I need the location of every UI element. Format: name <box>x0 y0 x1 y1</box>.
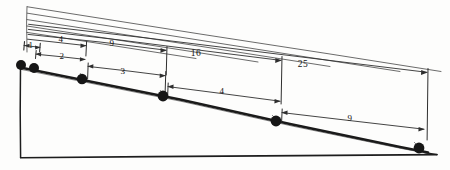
extension-line-25 <box>28 7 442 72</box>
dimension-4-lower-arrow-right <box>274 99 280 104</box>
label-upper-1: 1 <box>28 40 33 50</box>
ball-position-3 <box>77 74 87 84</box>
inclined-plane-figure: 1 4 9 16 25 2 3 4 9 <box>0 0 450 170</box>
label-upper-9: 9 <box>109 38 114 48</box>
dimension-9-lower-arrow-right <box>418 127 424 132</box>
dimension-1-tick-left <box>24 42 25 51</box>
dimension-2-lower-tick-left <box>36 51 37 59</box>
dimension-4-upper-arrow <box>80 43 86 48</box>
incline-base-edge <box>21 155 437 158</box>
ball-position-2 <box>29 63 39 73</box>
dimension-16-upper-tick <box>281 57 282 105</box>
ball-position-1 <box>16 60 26 70</box>
dimension-2-lower-arrow-right <box>80 57 86 61</box>
ball-position-5 <box>271 116 282 127</box>
dimension-3-lower-arrow-right <box>160 73 166 78</box>
ball-position-6 <box>414 143 425 154</box>
extension-line-group <box>27 7 441 72</box>
dimension-3-lower <box>88 63 166 96</box>
dimension-3-lower-connector <box>88 63 89 79</box>
dimension-3-lower-line <box>88 66 165 75</box>
dimension-9-upper-tick <box>166 47 167 76</box>
label-lower-2: 2 <box>59 51 64 61</box>
dimension-25-upper-tick <box>427 69 428 141</box>
extension-line-9 <box>27 20 330 67</box>
ball-position-4 <box>158 91 169 102</box>
dimension-9-upper-arrow <box>160 48 166 53</box>
dimension-25-upper-arrow <box>421 70 428 75</box>
label-lower-4: 4 <box>219 86 224 96</box>
label-upper-4: 4 <box>58 34 63 44</box>
ball-leader-group <box>80 73 418 146</box>
extension-line-16 <box>27 13 400 71</box>
label-lower-9: 9 <box>347 113 352 123</box>
figure-canvas: 1 4 9 16 25 2 3 4 9 <box>0 0 450 170</box>
label-lower-3: 3 <box>120 66 125 76</box>
dimension-4-upper-tick <box>86 42 87 57</box>
lower-dimension-group <box>36 51 425 132</box>
label-upper-25: 25 <box>298 59 309 69</box>
label-upper-16: 16 <box>191 48 202 58</box>
dimension-16-upper-line <box>28 29 281 60</box>
dimension-9-lower-connector <box>282 109 283 122</box>
dimension-9-upper <box>28 34 167 75</box>
